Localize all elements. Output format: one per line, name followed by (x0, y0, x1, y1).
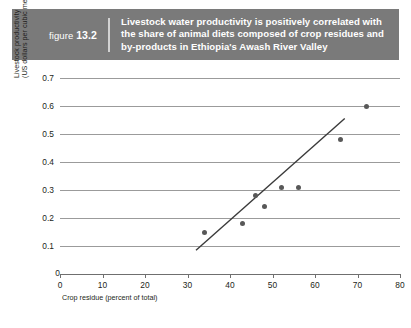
figure-header-bar: figure 13.2 Livestock water productivity… (12, 9, 399, 60)
data-point (202, 230, 207, 235)
y-axis-tick-label: 0.6 (20, 102, 54, 110)
data-point (262, 204, 267, 209)
x-axis-tick-label: 10 (88, 281, 118, 289)
y-axis-tick-label: 0.3 (20, 186, 54, 194)
data-point (296, 185, 301, 190)
plot-area (60, 78, 400, 274)
x-axis-tick-label: 30 (173, 281, 203, 289)
figure-number: 13.2 (76, 29, 97, 41)
y-axis-tick-label: 0.1 (20, 242, 54, 250)
x-axis-tick (230, 274, 231, 278)
y-axis-title-line2: (US dollars per cubic meter) (21, 0, 29, 78)
y-axis-title: Livestock productivity (US dollars per c… (13, 0, 27, 78)
figure-title: Livestock water productivity is positive… (110, 16, 399, 53)
x-axis-tick (145, 274, 146, 278)
y-axis-tick-label: 0.4 (20, 158, 54, 166)
data-point (364, 104, 369, 109)
x-axis-tick-label: 60 (300, 281, 330, 289)
y-axis-tick-label: 0.5 (20, 130, 54, 138)
figure-label-prefix: figure (49, 30, 73, 41)
x-axis-title: Crop residue (percent of total) (62, 294, 157, 302)
x-axis-tick-label: 80 (385, 281, 411, 289)
trend-line (60, 78, 400, 274)
x-axis-tick (273, 274, 274, 278)
y-axis-zero-label: 0 (26, 269, 60, 277)
x-axis-tick (358, 274, 359, 278)
y-axis-tick-label: 0.2 (20, 214, 54, 222)
x-axis-tick-label: 0 (45, 281, 75, 289)
x-axis-tick (60, 274, 61, 278)
x-axis-tick (188, 274, 189, 278)
x-axis-tick (400, 274, 401, 278)
x-axis-tick-label: 20 (130, 281, 160, 289)
scatter-chart: Livestock productivity (US dollars per c… (0, 60, 411, 328)
y-axis-tick-label: 0.7 (20, 74, 54, 82)
data-point (279, 185, 284, 190)
x-axis-tick (315, 274, 316, 278)
x-axis-tick-label: 50 (258, 281, 288, 289)
x-axis-tick-label: 70 (343, 281, 373, 289)
x-axis-tick-label: 40 (215, 281, 245, 289)
x-axis-tick (103, 274, 104, 278)
